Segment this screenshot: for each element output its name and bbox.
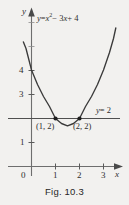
x-tick-label-2: 2 <box>77 171 82 180</box>
curve-eq-minus-three: − 3 <box>52 13 63 23</box>
line-eq-value: = 2 <box>100 105 111 115</box>
line-equation-label: y= 2 <box>96 106 111 115</box>
y-tick-label-4: 4 <box>19 66 24 75</box>
x-axis-label: x <box>115 170 119 179</box>
x-tick-label-3: 3 <box>101 171 106 180</box>
x-axis <box>8 163 123 170</box>
y-axis-label: y <box>22 7 26 16</box>
y-tick-label-1: 1 <box>20 138 25 147</box>
intersection-point-1 <box>53 116 57 120</box>
figure-caption: Fig. 10.3 <box>0 186 129 197</box>
point-label-1: (1, 2) <box>36 122 54 131</box>
plot-area: y x y=x2− 3x+ 4 y= 2 (1, 2) (2, 2) 4 3 1… <box>0 0 129 183</box>
point-label-2: (2, 2) <box>73 122 91 131</box>
curve-eq-plus-four: + 4 <box>67 13 78 23</box>
x-tick-label-0: 0 <box>21 171 26 180</box>
curve-equation-label: y=x2− 3x+ 4 <box>37 14 78 23</box>
y-axis-arrowhead <box>28 8 35 17</box>
intersection-point-2 <box>77 116 81 120</box>
y-tick-label-3: 3 <box>19 90 24 99</box>
y-axis <box>28 8 35 177</box>
figure-container: y x y=x2− 3x+ 4 y= 2 (1, 2) (2, 2) 4 3 1… <box>0 0 129 205</box>
x-tick-label-1: 1 <box>53 171 58 180</box>
